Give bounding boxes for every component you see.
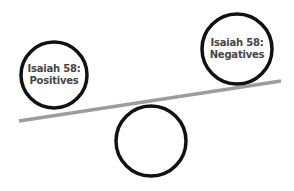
balance-beam <box>19 81 281 121</box>
positives-label: Isaiah 58: Positives <box>19 63 89 87</box>
negatives-label: Isaiah 58: Negatives <box>200 37 274 61</box>
positives-label-line2: Positives <box>19 75 89 87</box>
positives-label-line1: Isaiah 58: <box>19 63 89 75</box>
negatives-label-line1: Isaiah 58: <box>200 37 274 49</box>
negatives-label-line2: Negatives <box>200 49 274 61</box>
balance-diagram <box>0 0 294 191</box>
fulcrum-circle <box>116 106 186 176</box>
